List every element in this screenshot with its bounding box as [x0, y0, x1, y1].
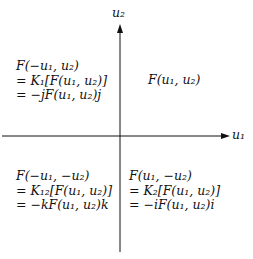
u1-axis-label: u₁	[232, 128, 245, 142]
quadrant-top-right: F(u₁, u₂)	[148, 73, 201, 88]
u1-arrow-icon	[221, 133, 230, 139]
quadrant-bottom-left: F(−u₁, −u₂) = K₁₂[F(u₁, u₂)] = −kF(u₁, u…	[16, 169, 112, 213]
u2-axis-label: u₂	[112, 6, 125, 20]
quadrant-bottom-right: F(u₁, −u₂) = K₂[F(u₁, u₂)] = −iF(u₁, u₂)…	[129, 169, 220, 213]
equation-line: = K₂[F(u₁, u₂)]	[129, 184, 220, 199]
axes	[0, 0, 253, 259]
equation-line: F(−u₁, −u₂)	[16, 169, 112, 184]
equation-line: F(u₁, u₂)	[148, 73, 201, 88]
equation-line: = −iF(u₁, u₂)i	[129, 198, 220, 213]
equation-line: = −jF(u₁, u₂)j	[16, 88, 107, 103]
quadrant-top-left: F(−u₁, u₂) = K₁[F(u₁, u₂)] = −jF(u₁, u₂)…	[16, 59, 107, 103]
equation-line: F(−u₁, u₂)	[16, 59, 107, 74]
equation-line: F(u₁, −u₂)	[129, 169, 220, 184]
equation-line: = −kF(u₁, u₂)k	[16, 198, 112, 213]
u2-arrow-icon	[117, 24, 123, 33]
quadrant-diagram: u₁ u₂ F(−u₁, u₂) = K₁[F(u₁, u₂)] = −jF(u…	[0, 0, 253, 259]
equation-line: = K₁₂[F(u₁, u₂)]	[16, 184, 112, 199]
equation-line: = K₁[F(u₁, u₂)]	[16, 74, 107, 89]
